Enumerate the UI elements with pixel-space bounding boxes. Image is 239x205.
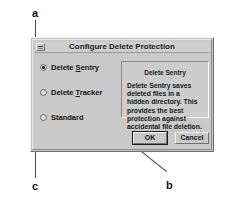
configure-delete-protection-dialog: Configure Delete Protection Delete Sentr…: [30, 37, 214, 152]
callout-label-c: c: [32, 181, 38, 192]
ok-button[interactable]: OK: [133, 132, 167, 144]
callout-label-a: a: [32, 8, 38, 19]
radio-indicator-tracker: [40, 89, 47, 96]
cancel-button[interactable]: Cancel: [175, 132, 209, 144]
description-body: Delete Sentry saves deleted files in a h…: [127, 82, 204, 131]
dialog-title: Configure Delete Protection: [35, 42, 209, 52]
callout-label-b: b: [166, 180, 173, 191]
dialog-client-area: Configure Delete Protection Delete Sentr…: [32, 39, 212, 150]
radio-indicator-sentry: [40, 64, 47, 71]
radio-indicator-standard: [40, 114, 47, 121]
title-bar: Configure Delete Protection: [35, 42, 209, 53]
description-groupbox: Delete Sentry Delete Sentry saves delete…: [121, 61, 209, 118]
description-heading: Delete Sentry: [122, 69, 208, 77]
radio-label-sentry: Delete Sentry: [51, 62, 99, 73]
radio-label-tracker: Delete Tracker: [51, 87, 102, 98]
radio-label-standard: Standard: [51, 112, 84, 123]
